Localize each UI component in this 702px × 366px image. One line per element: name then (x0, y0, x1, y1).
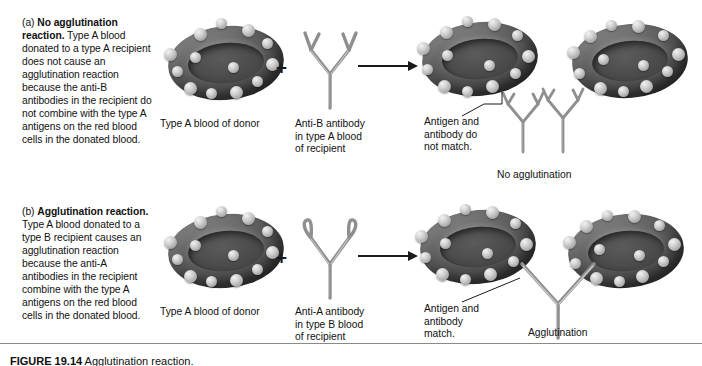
antigen-sphere (584, 30, 597, 43)
antigen-sphere (440, 238, 451, 249)
antigen-sphere (216, 206, 227, 217)
antigen-sphere (628, 210, 641, 223)
arrow-shaft (358, 255, 412, 257)
antigen-sphere (206, 276, 217, 287)
antigen-sphere (580, 220, 593, 233)
antigen-sphere (574, 68, 585, 79)
rbc-donor-b (168, 214, 284, 288)
panel-a-donor-label: Type A blood of donor (160, 118, 260, 131)
arrow-head (408, 61, 418, 71)
antigen-sphere (194, 216, 207, 229)
antigen-sphere (442, 50, 453, 61)
antigen-sphere (417, 42, 430, 55)
antigen-sphere (415, 230, 428, 243)
panel-b-marker: (b) (22, 206, 34, 217)
antigen-sphere (228, 62, 239, 73)
antigen-sphere (658, 256, 669, 267)
antigen-sphere (190, 52, 201, 63)
antigen-sphere (164, 48, 177, 61)
antigen-sphere (184, 82, 197, 95)
antigen-sphere (602, 210, 613, 221)
antigen-sphere (206, 88, 217, 99)
antigen-sphere (662, 66, 673, 77)
antigen-sphere (216, 18, 227, 29)
antigen-sphere (614, 276, 625, 287)
panel-a-callout-leader (462, 92, 522, 118)
antigen-sphere (190, 240, 201, 251)
antigen-sphere (172, 66, 183, 77)
antigen-sphere (484, 60, 495, 71)
antigen-sphere (658, 30, 669, 41)
antigen-sphere (668, 238, 681, 251)
panel-a-caption: (a) No agglutination reaction. Type A bl… (22, 16, 154, 146)
antigen-sphere (184, 270, 197, 283)
panel-b-title: Agglutination reaction. (37, 206, 148, 217)
arrow-shaft (358, 65, 412, 67)
antigen-sphere (632, 20, 645, 33)
antigen-sphere (672, 48, 685, 61)
antigen-sphere (462, 16, 473, 27)
arrow-head (408, 251, 418, 261)
antigen-sphere (164, 236, 177, 249)
antibody-unbound-a-right (540, 88, 586, 154)
antigen-sphere (522, 50, 535, 63)
antigen-sphere (230, 274, 243, 287)
panel-b-body: Type A blood donated to a type B recipie… (22, 219, 141, 321)
antigen-sphere (510, 218, 521, 229)
panel-b-antibody-label: Anti-A antibody in type B blood of recip… (295, 306, 364, 344)
antigen-sphere (422, 64, 433, 75)
antigen-sphere (262, 38, 273, 49)
antigen-sphere (242, 212, 255, 225)
antigen-sphere (520, 238, 533, 251)
panel-a-body: Type A blood donated to a type A recipie… (22, 30, 152, 145)
antigen-sphere (598, 54, 609, 65)
antigen-sphere (252, 264, 263, 275)
antigen-sphere (436, 268, 449, 281)
panel-b-callout-label: Antigen and antibody match. (424, 303, 479, 341)
antigen-sphere (563, 236, 576, 249)
antigen-sphere (488, 18, 501, 31)
antigen-sphere (634, 250, 645, 261)
antigen-sphere (618, 86, 629, 97)
antigen-sphere (636, 270, 649, 283)
antigen-sphere (654, 220, 665, 231)
antigen-sphere (228, 250, 239, 261)
figure-caption-text: Agglutination reaction. (82, 355, 193, 366)
panel-a-plus-symbol: + (276, 58, 287, 77)
figure-caption: FIGURE 19.14 Agglutination reaction. (10, 355, 700, 366)
antigen-sphere (567, 46, 580, 59)
panel-a-result-label: No agglutination (497, 169, 571, 182)
panel-b-callout-leader (462, 278, 524, 304)
antigen-sphere (194, 28, 207, 41)
antigen-sphere (440, 26, 453, 39)
antigen-sphere (640, 80, 653, 93)
antigen-sphere (230, 86, 243, 99)
panel-a-callout-label: Antigen and antibody do not match. (424, 116, 479, 154)
agglutination-figure: (a) No agglutination reaction. Type A bl… (0, 0, 702, 366)
panel-b-caption: (b) Agglutination reaction. Type A blood… (22, 205, 154, 322)
antigen-sphere (638, 60, 649, 71)
antigen-sphere (438, 80, 451, 93)
figure-divider (0, 343, 702, 344)
antigen-sphere (262, 226, 273, 237)
panel-b-result-label: Agglutination (528, 327, 588, 340)
antigen-sphere (482, 248, 493, 259)
rbc-product-a-left (422, 22, 538, 96)
antibody-anti-b (298, 28, 362, 110)
antigen-sphere (594, 82, 607, 95)
antigen-sphere (486, 206, 499, 219)
rbc-product-a-right (572, 24, 688, 98)
figure-number: FIGURE 19.14 (10, 355, 82, 366)
antigen-sphere (460, 204, 471, 215)
antigen-sphere (512, 30, 523, 41)
panel-a-marker: (a) (22, 17, 34, 28)
antigen-sphere (606, 20, 617, 31)
rbc-donor-a (168, 26, 284, 100)
panel-b-donor-label: Type A blood of donor (160, 306, 260, 319)
antibody-anti-a (298, 218, 362, 300)
antigen-sphere (594, 244, 605, 255)
antigen-sphere (172, 254, 183, 265)
antigen-sphere (242, 24, 255, 37)
antigen-sphere (510, 68, 521, 79)
antigen-sphere (438, 214, 451, 227)
